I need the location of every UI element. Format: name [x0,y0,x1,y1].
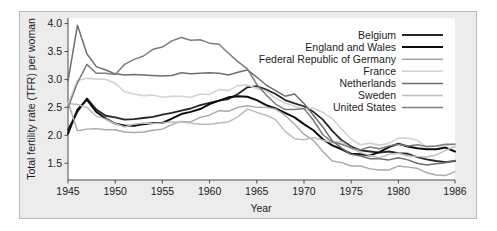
x-tick-label: 1950 [104,185,128,197]
x-axis-title: Year [250,202,272,214]
y-tick-label: 3.5 [47,45,62,57]
plot-area-background [68,18,455,180]
x-axis-ticks: 194519501955196019651970197519801986 [56,180,467,197]
x-tick-label: 1965 [245,185,269,197]
x-tick-label: 1945 [56,185,80,197]
y-tick-label: 2.0 [47,129,62,141]
figure-container: 1.52.02.53.03.54.0 194519501955196019651… [0,0,497,231]
y-tick-label: 1.5 [47,157,62,169]
x-tick-label: 1955 [151,185,175,197]
x-tick-label: 1975 [339,185,363,197]
legend-label: Belgium [358,29,396,41]
y-tick-label: 4.0 [47,17,62,29]
legend-label: United States [333,101,396,113]
y-tick-label: 2.5 [47,101,62,113]
legend-label: England and Wales [305,41,396,53]
y-axis-ticks: 1.52.02.53.03.54.0 [47,17,68,169]
legend-label: Sweden [358,89,396,101]
legend-label: Federal Republic of Germany [259,53,397,65]
legend-label: France [363,65,396,77]
x-tick-label: 1960 [198,185,222,197]
x-tick-label: 1970 [292,185,316,197]
x-tick-label: 1980 [387,185,411,197]
legend-label: Netherlands [339,77,396,89]
line-chart: 1.52.02.53.03.54.0 194519501955196019651… [0,0,497,231]
y-axis-title: Total fertility rate (TFR) per woman [25,18,37,180]
y-tick-label: 3.0 [47,73,62,85]
x-tick-label: 1986 [443,185,467,197]
